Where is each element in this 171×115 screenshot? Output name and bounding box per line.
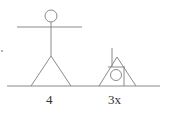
head-icon [45,10,57,22]
right-leg-line [51,56,71,86]
left-figure-label: 4 [46,92,53,108]
right-figure-label: 3x [108,92,121,108]
triangle-left-line [99,57,117,86]
circle-icon [111,70,122,81]
diagram: 4 3x [0,0,171,115]
standing-stick-figure [17,10,82,86]
left-leg-line [31,56,51,86]
diagram-canvas [0,0,171,115]
triangle-with-circle-figure [99,48,136,86]
